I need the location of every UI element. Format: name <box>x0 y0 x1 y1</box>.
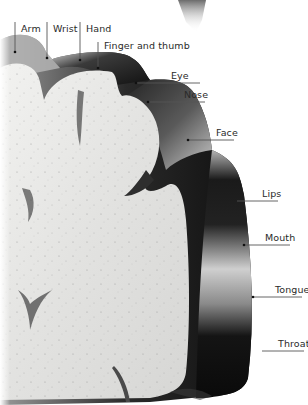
label-mouth: Mouth <box>265 232 295 243</box>
cortex-illustration <box>0 0 308 405</box>
label-arm: Arm <box>21 23 41 34</box>
label-wrist: Wrist <box>53 23 78 34</box>
label-throat: Throat <box>278 338 308 349</box>
cortex-diagram: Arm Wrist Hand Finger and thumb Eye Nose… <box>0 0 308 405</box>
label-tongue: Tongue <box>275 284 308 295</box>
label-face: Face <box>216 127 238 138</box>
label-hand: Hand <box>86 23 111 34</box>
label-finger-and-thumb: Finger and thumb <box>104 40 190 51</box>
label-nose: Nose <box>184 89 208 100</box>
label-eye: Eye <box>171 70 189 81</box>
label-lips: Lips <box>262 188 281 199</box>
